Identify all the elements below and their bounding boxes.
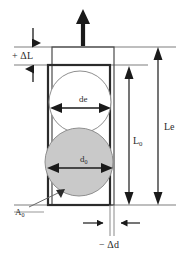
label-d0: d0 xyxy=(80,155,88,164)
label-le: Le xyxy=(164,122,175,132)
label-a0-text: A xyxy=(15,207,22,217)
diagram-canvas xyxy=(0,0,189,263)
label-a0: A0 xyxy=(15,208,25,217)
label-l0-subscript: 0 xyxy=(139,140,142,147)
label-de: de xyxy=(79,95,88,104)
tensile-specimen-diagram: + ΔL de d0 L0 Le A0 − Δd xyxy=(0,0,189,263)
label-delta-l: + ΔL xyxy=(12,51,33,61)
label-d0-text: d xyxy=(80,154,85,164)
le-dimension-arrow xyxy=(154,47,163,205)
delta-d-extension-lines xyxy=(110,205,114,236)
load-arrow-up xyxy=(76,9,90,46)
label-a0-subscript: 0 xyxy=(22,212,25,218)
label-l0: L0 xyxy=(133,136,143,146)
label-delta-d: − Δd xyxy=(99,240,119,250)
cross-section-circle-d0 xyxy=(45,128,113,196)
label-d0-subscript: 0 xyxy=(85,159,88,165)
